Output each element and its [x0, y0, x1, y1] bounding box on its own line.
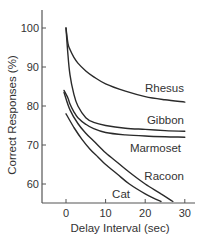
y-axis-label: Correct Responses (%) — [6, 55, 18, 175]
x-tick-label: 10 — [99, 207, 111, 219]
label-gibbon: Gibbon — [147, 114, 184, 126]
x-tick-label: 30 — [179, 207, 191, 219]
y-tick-label: 90 — [27, 61, 39, 73]
x-tick-label: 20 — [139, 207, 151, 219]
y-tick-label: 70 — [27, 139, 39, 151]
x-axis-label: Delay Interval (sec) — [70, 222, 169, 234]
label-marmoset: Marmoset — [130, 142, 182, 154]
y-tick-label: 80 — [27, 100, 39, 112]
series-labels: RhesusGibbonMarmosetRacoonCat — [112, 82, 184, 200]
label-racoon: Racoon — [144, 170, 184, 182]
label-rhesus: Rhesus — [145, 82, 184, 94]
x-tick-label: 0 — [63, 207, 69, 219]
label-cat: Cat — [112, 188, 131, 200]
y-tick-label: 60 — [27, 178, 39, 190]
y-tick-label: 100 — [21, 22, 39, 34]
chart: 607080901000102030 RhesusGibbonMarmosetR… — [0, 0, 208, 243]
